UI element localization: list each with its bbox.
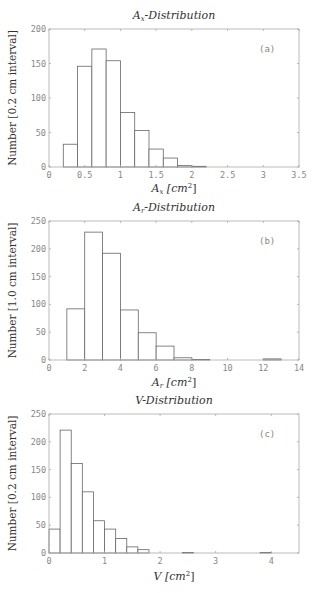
x-tick-label: 2	[82, 363, 87, 373]
y-tick-label: 200	[31, 24, 46, 34]
chart-c-v-distribution: 01234050100150200250V-DistributionV [cm2…	[6, 394, 299, 583]
y-tick-label: 50	[36, 327, 46, 337]
chart-a-ax-distribution: 00.511.522.533.5050100150200Ax-Distribut…	[6, 9, 307, 196]
histogram-bar	[156, 346, 174, 360]
x-tick-label: 8	[189, 363, 194, 373]
y-tick-label: 250	[31, 409, 46, 419]
histogram-bar	[120, 112, 134, 167]
x-axis-label: V [cm2]	[153, 570, 194, 583]
x-tick-label: 3	[261, 170, 266, 180]
histogram-bar	[63, 144, 77, 167]
x-tick-label: 2.5	[220, 170, 235, 180]
y-tick-label: 50	[36, 520, 46, 530]
histogram-bar	[135, 130, 149, 167]
x-tick-label: 4	[269, 556, 274, 566]
x-tick-label: 12	[258, 363, 268, 373]
chart-title: Ax-Distribution	[132, 9, 216, 23]
histogram-figure: 00.511.522.533.5050100150200Ax-Distribut…	[0, 0, 316, 593]
histogram-bar	[67, 309, 85, 360]
chart-title: V-Distribution	[135, 394, 213, 407]
y-tick-label: 50	[36, 128, 46, 138]
x-tick-label: 3.5	[291, 170, 306, 180]
histogram-bar	[116, 539, 127, 553]
histogram-bar	[149, 149, 163, 167]
histogram-bar	[71, 463, 82, 553]
x-tick-label: 2	[158, 556, 163, 566]
panel-label: (b)	[259, 236, 275, 246]
histogram-bar	[92, 49, 106, 167]
y-tick-label: 100	[31, 299, 46, 309]
y-tick-label: 150	[31, 465, 46, 475]
y-axis-label: Number [1.0 cm interval]	[6, 223, 18, 359]
histogram-bar	[138, 550, 149, 553]
y-tick-label: 250	[31, 216, 46, 226]
histogram-bar	[120, 310, 138, 360]
y-tick-label: 200	[31, 437, 46, 447]
x-tick-label: 0.5	[77, 170, 92, 180]
x-axis-label: Ax [cm2]	[150, 182, 196, 196]
panel-label: (c)	[259, 429, 275, 439]
x-tick-label: 4	[118, 363, 123, 373]
histogram-bar	[60, 430, 71, 553]
y-tick-label: 100	[31, 93, 46, 103]
histogram-bar	[105, 529, 116, 553]
panel-label: (a)	[259, 44, 275, 54]
chart-title: Ar-Distribution	[132, 201, 215, 215]
y-tick-label: 0	[41, 162, 46, 172]
histogram-bar	[85, 232, 103, 360]
x-tick-label: 14	[294, 363, 304, 373]
y-tick-label: 150	[31, 59, 46, 69]
x-tick-label: 0	[46, 363, 51, 373]
x-tick-label: 2	[189, 170, 194, 180]
x-tick-label: 1	[118, 170, 123, 180]
x-tick-label: 1	[102, 556, 107, 566]
histogram-bar	[78, 66, 92, 167]
y-tick-label: 0	[41, 355, 46, 365]
y-tick-label: 150	[31, 272, 46, 282]
x-axis-label: Ar [cm2]	[151, 376, 196, 390]
y-axis-label: Number [0.2 cm interval]	[6, 416, 18, 552]
y-tick-label: 0	[41, 548, 46, 558]
histogram-bar	[138, 333, 156, 360]
x-tick-label: 10	[222, 363, 232, 373]
histogram-bar	[49, 529, 60, 553]
x-tick-label: 0	[46, 556, 51, 566]
x-tick-label: 6	[154, 363, 159, 373]
x-tick-label: 1.5	[148, 170, 163, 180]
x-tick-label: 0	[46, 170, 51, 180]
histogram-bar	[106, 61, 120, 167]
x-tick-label: 3	[213, 556, 218, 566]
histogram-bar	[163, 158, 177, 167]
histogram-bar	[93, 521, 104, 553]
y-tick-label: 100	[31, 492, 46, 502]
chart-b-ar-distribution: 02468101214050100150200250Ar-Distributio…	[6, 201, 304, 390]
histogram-bar	[103, 253, 121, 360]
histogram-bar	[127, 547, 138, 553]
y-tick-label: 200	[31, 244, 46, 254]
histogram-bar	[82, 492, 93, 553]
y-axis-label: Number [0.2 cm interval]	[6, 30, 18, 166]
